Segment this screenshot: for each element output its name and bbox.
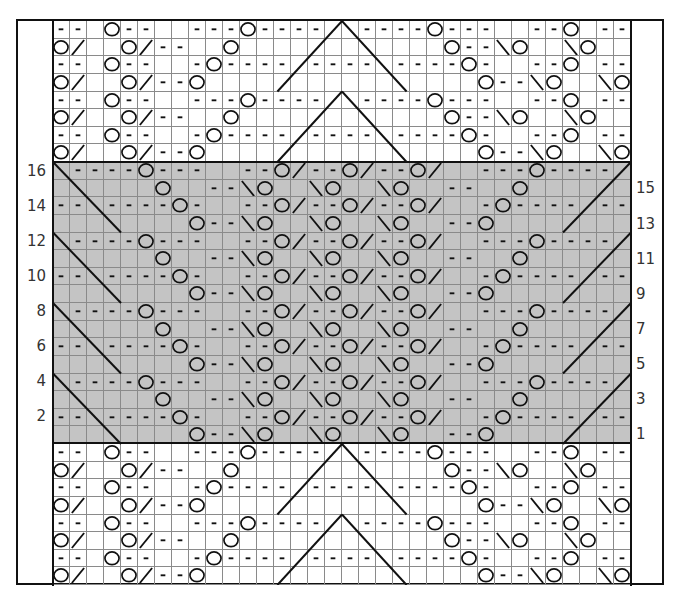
row-number-label: 8 [36, 302, 46, 320]
row-number-label: 14 [27, 197, 46, 215]
row-number-label: 9 [636, 285, 646, 303]
row-number-label: 13 [636, 215, 655, 233]
row-number-label: 12 [27, 232, 46, 250]
row-number-label: 7 [636, 320, 646, 338]
row-number-label: 10 [27, 267, 46, 285]
row-number-label: 6 [36, 337, 46, 355]
row-number-label: 11 [636, 250, 655, 268]
row-number-label: 15 [636, 179, 655, 197]
row-number-label: 3 [636, 390, 646, 408]
row-number-label: 1 [636, 425, 646, 443]
row-number-label: 2 [36, 407, 46, 425]
row-number-label: 5 [636, 355, 646, 373]
row-number-label: 4 [36, 372, 46, 390]
grid-border [52, 20, 632, 586]
row-number-label: 16 [27, 162, 46, 180]
